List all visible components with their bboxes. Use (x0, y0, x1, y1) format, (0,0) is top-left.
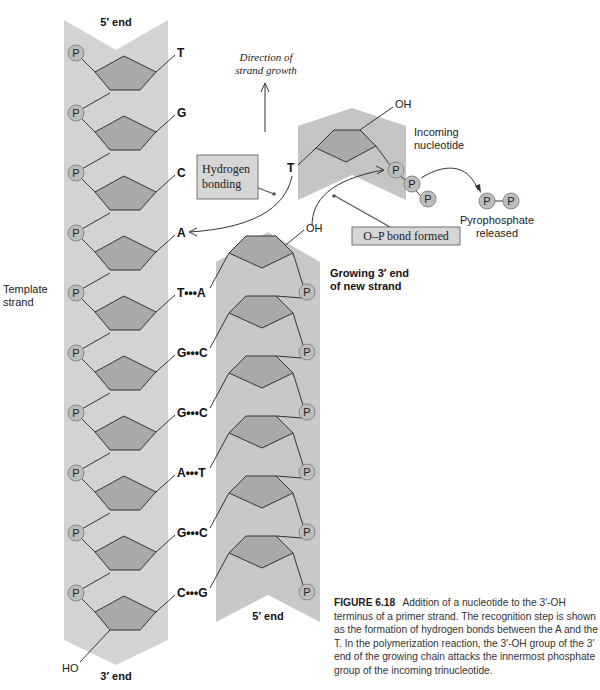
svg-text:strand growth: strand growth (235, 64, 297, 76)
svg-text:strand: strand (3, 296, 34, 308)
svg-text:P: P (483, 195, 490, 207)
svg-text:nucleotide: nucleotide (414, 139, 464, 151)
incoming-oh-label: OH (395, 98, 412, 110)
svg-text:Direction of: Direction of (238, 51, 294, 63)
figure-caption: FIGURE 6.18 Addition of a nucleotide to … (334, 596, 598, 678)
svg-text:P: P (303, 286, 310, 298)
svg-text:P: P (72, 167, 79, 179)
svg-text:P: P (424, 193, 431, 205)
template-5-end-label: 5′ end (100, 16, 131, 28)
base-label: A (177, 226, 186, 240)
svg-text:of new strand: of new strand (330, 280, 402, 292)
dna-replication-diagram: PTPGPCPAPT•••APG•••CPG•••CPA•••TPG•••CPC… (0, 0, 600, 690)
svg-text:P: P (72, 527, 79, 539)
svg-text:P: P (72, 587, 79, 599)
base-label: G (177, 106, 186, 120)
base-label: A•••T (177, 466, 206, 480)
svg-text:P: P (72, 407, 79, 419)
new-strand-oh-label: OH (306, 222, 323, 234)
svg-text:P: P (72, 47, 79, 59)
svg-text:P: P (303, 346, 310, 358)
release-arrow (421, 168, 478, 190)
svg-text:P: P (72, 227, 79, 239)
base-label: T (177, 46, 185, 60)
svg-text:P: P (303, 526, 310, 538)
svg-text:O–P bond formed: O–P bond formed (363, 229, 449, 243)
base-label: G•••C (177, 526, 208, 540)
hydrogen-bonding-callout: Hydrogen bonding (189, 155, 292, 236)
svg-text:P: P (72, 467, 79, 479)
incoming-nucleotide-label: Incoming (414, 126, 459, 138)
svg-text:bonding: bonding (202, 177, 241, 191)
svg-text:P: P (72, 287, 79, 299)
base-label: G•••C (177, 406, 208, 420)
svg-text:P: P (303, 406, 310, 418)
caption-text: Addition of a nucleotide to the 3′-OH te… (334, 597, 598, 676)
figure-number: FIGURE 6.18 (334, 597, 395, 608)
new-5-end-label: 5′ end (252, 610, 283, 622)
base-label: C•••G (177, 586, 208, 600)
base-label: C (177, 166, 186, 180)
pyrophosphate-label: Pyrophosphate (460, 214, 534, 226)
base-label: G•••C (177, 346, 208, 360)
template-strand-label: Template (3, 283, 48, 295)
svg-text:P: P (408, 178, 415, 190)
svg-text:P: P (303, 466, 310, 478)
svg-text:Hydrogen: Hydrogen (202, 162, 250, 176)
incoming-base-label: T (287, 161, 295, 175)
svg-text:released: released (476, 227, 518, 239)
svg-text:P: P (303, 586, 310, 598)
growing-end-label: Growing 3′ end (330, 267, 409, 279)
template-3-end-label: 3′ end (100, 670, 131, 682)
template-ho-label: HO (62, 662, 79, 674)
base-label: T•••A (177, 286, 206, 300)
svg-text:P: P (392, 164, 399, 176)
svg-text:P: P (72, 107, 79, 119)
svg-text:P: P (72, 347, 79, 359)
svg-text:P: P (507, 195, 514, 207)
direction-annotation: Direction of strand growth (235, 51, 297, 132)
